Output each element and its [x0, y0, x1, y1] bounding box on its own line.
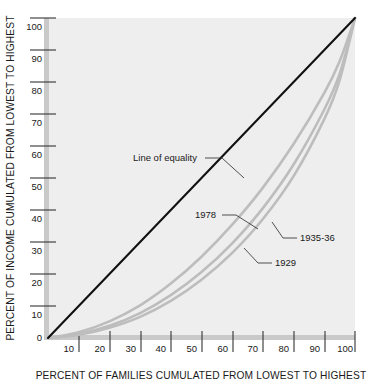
y-axis-tick-labels: 100 90 80 70 60 50 40 30 20 10 0 — [26, 21, 42, 343]
y-tick-label: 40 — [31, 213, 42, 224]
y-tick-label: 100 — [26, 21, 42, 32]
x-tick-label: 30 — [125, 343, 136, 354]
chart-canvas: 100 90 80 70 60 50 40 30 20 10 0 — [0, 0, 378, 392]
y-tick-label: 0 — [37, 332, 42, 343]
annotation-line-of-equality: Line of equality — [133, 152, 197, 163]
y-axis-bar — [44, 18, 49, 340]
x-tick-label: 100 — [337, 343, 353, 354]
x-tick-label: 90 — [309, 343, 320, 354]
x-tick-label: 50 — [186, 343, 197, 354]
x-tick-label: 60 — [217, 343, 228, 354]
y-tick-label: 20 — [31, 277, 42, 288]
x-tick-label: 80 — [278, 343, 289, 354]
y-tick-label: 80 — [31, 85, 42, 96]
x-tick-label: 10 — [63, 343, 74, 354]
y-axis-title: PERCENT OF INCOME CUMULATED FROM LOWEST … — [5, 15, 16, 340]
x-axis-title: PERCENT OF FAMILIES CUMULATED FROM LOWES… — [36, 370, 367, 381]
x-tick-label: 70 — [247, 343, 258, 354]
annotation-1929: 1929 — [275, 257, 296, 268]
annotation-1978: 1978 — [195, 209, 216, 220]
y-tick-label: 70 — [31, 117, 42, 128]
x-axis-bar — [46, 335, 355, 340]
y-tick-label: 50 — [31, 181, 42, 192]
y-tick-label: 60 — [31, 149, 42, 160]
x-tick-label: 20 — [94, 343, 105, 354]
y-tick-label: 90 — [31, 53, 42, 64]
y-tick-label: 30 — [31, 245, 42, 256]
x-tick-label: 40 — [155, 343, 166, 354]
annotation-1935-36: 1935-36 — [300, 232, 335, 243]
x-axis-tick-labels: 10 20 30 40 50 60 70 80 90 100 — [63, 343, 353, 354]
lorenz-curve-chart: 100 90 80 70 60 50 40 30 20 10 0 — [0, 0, 378, 392]
y-tick-label: 10 — [31, 309, 42, 320]
